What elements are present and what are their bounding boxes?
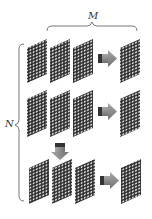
m-brace — [47, 22, 137, 31]
diagram-canvas — [0, 0, 152, 219]
input-panel — [29, 159, 49, 204]
n-label: N — [5, 118, 14, 129]
input-panel — [50, 39, 70, 83]
right-arrow-icon — [98, 103, 117, 120]
input-panel — [27, 39, 47, 83]
input-panel — [27, 90, 47, 137]
output-panel — [121, 159, 141, 204]
input-panel — [75, 159, 95, 204]
input-panel — [73, 90, 93, 137]
right-arrow-icon — [98, 50, 117, 67]
right-arrow-icon — [100, 172, 119, 189]
down-arrow-icon — [51, 143, 69, 160]
m-label: M — [88, 10, 98, 21]
row-2 — [27, 90, 140, 137]
output-panel — [120, 39, 140, 83]
input-panel — [52, 159, 72, 204]
input-panel — [73, 39, 93, 83]
input-panel — [50, 90, 70, 137]
row-1 — [27, 39, 140, 83]
output-panel — [120, 90, 140, 137]
n-brace — [15, 44, 24, 201]
row-3 — [29, 159, 141, 204]
